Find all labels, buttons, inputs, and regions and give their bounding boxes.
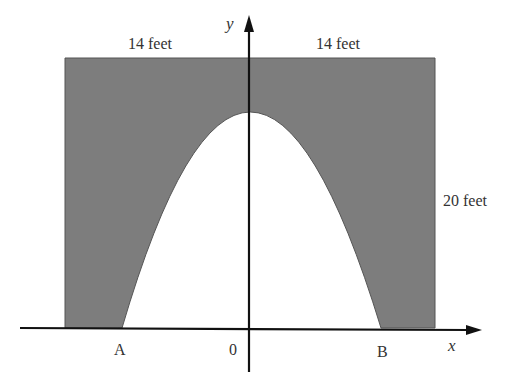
label-top-left-width: 14 feet — [128, 35, 173, 52]
label-origin: 0 — [229, 341, 237, 358]
label-height: 20 feet — [443, 192, 488, 209]
label-y-axis: y — [224, 14, 234, 33]
label-top-right-width: 14 feet — [316, 35, 361, 52]
label-x-axis: x — [447, 336, 456, 355]
y-axis-arrow-icon — [244, 15, 254, 32]
label-point-b: B — [377, 343, 388, 360]
label-point-a: A — [114, 341, 126, 358]
x-axis-arrow-icon — [466, 325, 482, 335]
arch-diagram: 14 feet 14 feet 20 feet A B 0 x y — [0, 0, 514, 385]
